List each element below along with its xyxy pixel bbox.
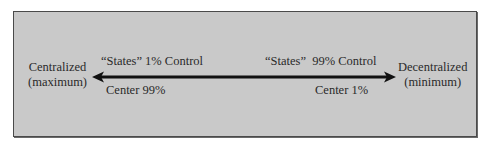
minimum-text: (minimum) — [398, 75, 467, 90]
states-99-percent-label: “States” 99% Control — [265, 54, 376, 69]
center-1-percent-label: Center 1% — [315, 83, 368, 98]
decentralized-text: Decentralized — [398, 60, 467, 75]
center-99-percent-label: Center 99% — [106, 83, 165, 98]
centralized-label: Centralized (maximum) — [28, 60, 87, 90]
centralized-text: Centralized — [28, 60, 87, 75]
double-headed-arrow-icon — [92, 71, 396, 83]
decentralized-label: Decentralized (minimum) — [398, 60, 467, 90]
states-1-percent-label: “States” 1% Control — [101, 54, 203, 69]
maximum-text: (maximum) — [28, 75, 87, 90]
